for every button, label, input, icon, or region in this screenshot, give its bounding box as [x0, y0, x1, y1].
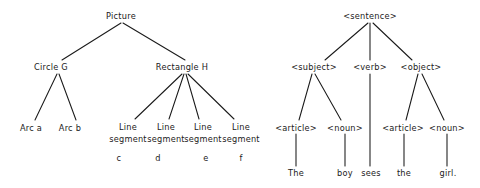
node-line-segment-c-line2: segment [109, 134, 147, 146]
node-subject: <subject> [291, 62, 337, 72]
node-verb: <verb> [353, 62, 387, 72]
node-line-segment-f: Line segment [222, 122, 260, 145]
edge-sentence-object [373, 23, 412, 60]
label-f: f [239, 153, 242, 163]
terminal-the-subject: The [288, 168, 304, 178]
node-arc-a: Arc a [20, 123, 42, 133]
node-object: <object> [401, 62, 442, 72]
edge-sentence-subject [325, 23, 368, 60]
edge-picture-rectangle [123, 23, 185, 60]
edge-object-noun [422, 74, 444, 120]
node-noun-object: <noun> [429, 123, 465, 133]
edge-rectangle-lineseg-f [188, 74, 234, 119]
node-line-segment-c: Line segment [109, 122, 147, 145]
node-arc-b: Arc b [59, 123, 81, 133]
node-article-object: <article> [382, 123, 424, 133]
node-line-segment-e-line1: Line [194, 122, 212, 132]
label-c: c [117, 153, 122, 163]
edge-object-article [406, 74, 418, 120]
diagram-canvas: Picture Circle G Rectangle H Arc a Arc b… [0, 0, 480, 188]
edge-rectangle-lineseg-c [135, 74, 182, 119]
terminal-the-object: the [397, 168, 411, 178]
edge-circle-arca [35, 74, 57, 120]
node-line-segment-e: Line segment [184, 122, 222, 145]
edge-circle-arcb [59, 74, 76, 120]
node-line-segment-d-line1: Line [157, 122, 175, 132]
node-noun-subject: <noun> [327, 123, 363, 133]
label-d: d [155, 153, 160, 163]
node-line-segment-c-line1: Line [119, 122, 137, 132]
node-circle-g: Circle G [34, 62, 68, 72]
edge-subject-noun [315, 74, 341, 120]
node-line-segment-d-line2: segment [147, 134, 185, 146]
node-line-segment-f-line1: Line [232, 122, 250, 132]
node-line-segment-d: Line segment [147, 122, 185, 145]
node-line-segment-f-line2: segment [222, 134, 260, 146]
terminal-sees: sees [361, 168, 381, 178]
edge-picture-circle [62, 23, 121, 60]
terminal-girl: girl. [440, 168, 457, 178]
terminal-boy: boy [337, 168, 353, 178]
node-rectangle-h: Rectangle H [156, 62, 208, 72]
node-sentence: <sentence> [343, 11, 397, 21]
edge-subject-article [299, 74, 312, 120]
edge-rectangle-lineseg-e [186, 74, 199, 119]
node-line-segment-e-line2: segment [184, 134, 222, 146]
node-picture: Picture [106, 11, 136, 21]
label-e: e [203, 153, 208, 163]
node-article-subject: <article> [275, 123, 317, 133]
edge-rectangle-lineseg-d [169, 74, 184, 119]
